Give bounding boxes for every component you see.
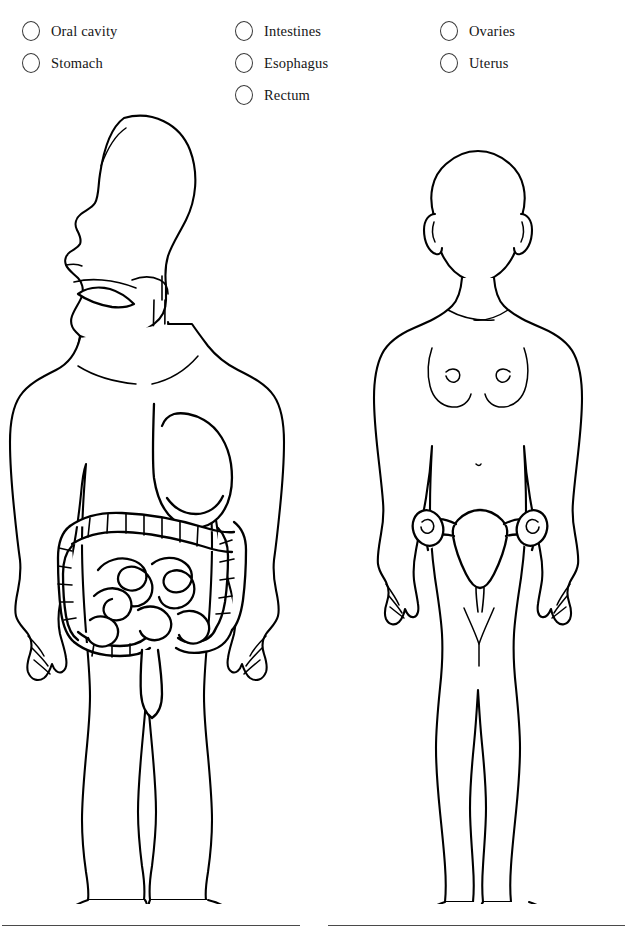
option-label: Intestines [264,24,321,39]
organ-option-list: Oral cavity Stomach Intestines Esophagus… [0,0,627,112]
footer-rule-right [328,925,625,926]
radio-circle-icon[interactable] [235,85,253,105]
option-label: Esophagus [264,56,328,71]
option-item-esophagus[interactable]: Esophagus [235,51,328,75]
radio-circle-icon[interactable] [440,53,458,73]
radio-circle-icon[interactable] [22,53,40,73]
option-label: Rectum [264,88,310,103]
option-item-ovaries[interactable]: Ovaries [440,19,515,43]
option-label: Uterus [469,56,509,71]
option-label: Stomach [51,56,103,71]
option-item-stomach[interactable]: Stomach [22,51,103,75]
option-item-uterus[interactable]: Uterus [440,51,509,75]
footer-rule-left [2,925,300,926]
option-item-intestines[interactable]: Intestines [235,19,321,43]
option-item-oral-cavity[interactable]: Oral cavity [22,19,117,43]
male-anatomy-figure[interactable] [2,104,302,904]
option-label: Oral cavity [51,24,117,39]
radio-circle-icon[interactable] [235,21,253,41]
radio-circle-icon[interactable] [235,53,253,73]
radio-circle-icon[interactable] [440,21,458,41]
option-label: Ovaries [469,24,515,39]
female-anatomy-figure[interactable] [328,104,627,904]
radio-circle-icon[interactable] [22,21,40,41]
